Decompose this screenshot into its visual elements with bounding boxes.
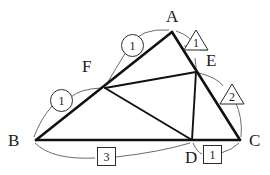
ratio-marker-bd: 3	[97, 147, 116, 166]
ratio-marker-af-value: 1	[130, 40, 136, 52]
segment-ED	[192, 72, 196, 140]
arc-dc-2	[221, 143, 239, 153]
ratio-marker-ae: 1	[183, 29, 209, 51]
vertex-label-C: C	[249, 132, 260, 149]
ratio-marker-ae-value: 1	[183, 36, 209, 51]
arc-bd	[35, 143, 95, 158]
vertex-label-A: A	[166, 8, 178, 25]
vertex-label-F: F	[82, 58, 91, 75]
ratio-marker-ec-value: 2	[219, 90, 245, 105]
vertex-label-E: E	[206, 52, 216, 69]
arc-fb-2	[34, 106, 52, 137]
ratio-marker-af: 1	[121, 34, 144, 57]
segment-FD	[105, 88, 192, 140]
arc-af-2	[106, 52, 126, 85]
ratio-marker-fb: 1	[50, 89, 73, 112]
ratio-marker-fb-value: 1	[59, 95, 65, 107]
cevian-lines	[105, 72, 196, 140]
vertex-label-B: B	[8, 132, 19, 149]
segment-AB	[36, 32, 172, 140]
ratio-marker-dc: 1	[203, 145, 222, 164]
ratio-marker-dc-value: 1	[210, 149, 216, 161]
ratio-marker-bd-value: 3	[104, 151, 110, 163]
geometry-diagram: A B C D E F 1 1 1 2 3 1	[0, 0, 270, 175]
vertex-label-D: D	[185, 149, 197, 166]
ratio-marker-ec: 2	[219, 83, 245, 105]
arc-bd-2	[116, 143, 190, 157]
